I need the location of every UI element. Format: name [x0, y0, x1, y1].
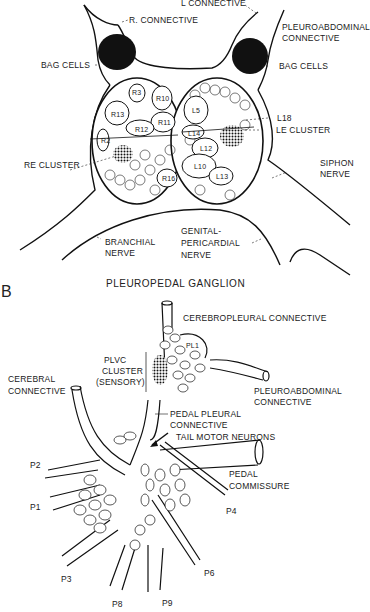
panel-letter-b: B: [1, 283, 12, 301]
label-pedal-pleural-2: CONNECTIVE: [170, 420, 228, 430]
neuron-r12: R12: [135, 125, 148, 135]
label-pleuroabdominal-2: CONNECTIVE: [282, 33, 340, 43]
label-pleuroabdominal-b-2: CONNECTIVE: [254, 397, 312, 407]
label-p8: P8: [112, 599, 123, 609]
label-siphon-2: NERVE: [320, 169, 350, 179]
neuron-r2: R2: [101, 136, 110, 146]
neuron-l13: L13: [216, 172, 228, 182]
label-plvc-3: (SENSORY): [96, 377, 145, 387]
label-pedal-pleural-1: PEDAL PLEURAL: [170, 409, 241, 419]
plvc-cluster: [152, 355, 168, 385]
label-genital-2: PERICARDIAL: [181, 238, 240, 248]
label-cerebral-2: CONNECTIVE: [8, 386, 66, 396]
pleuropedal-outline: [45, 301, 269, 592]
label-p2: P2: [30, 460, 41, 470]
label-pedal-commissure-1: PEDAL: [229, 469, 258, 479]
neuron-r13: R13: [111, 110, 124, 120]
panel-b-title: PLEUROPEDAL GANGLION: [106, 278, 245, 289]
neuron-r3: R3: [132, 88, 141, 98]
label-p4: P4: [226, 506, 237, 516]
neuron-l14: L14: [188, 129, 200, 139]
label-re-cluster: RE CLUSTER: [24, 160, 80, 170]
bag-cells-right: [232, 38, 268, 74]
bag-cells-left: [98, 34, 136, 70]
label-cerebropleural: CEREBROPLEURAL CONNECTIVE: [183, 313, 327, 323]
neuron-r10: R10: [156, 94, 169, 104]
label-siphon-1: SIPHON: [320, 158, 354, 168]
label-genital-3: NERVE: [181, 250, 211, 260]
label-bag-cells-right: BAG CELLS: [279, 61, 328, 71]
label-tail-motor-neurons: TAIL MOTOR NEURONS: [176, 432, 275, 442]
label-plvc-2: CLUSTER: [102, 366, 143, 376]
label-le-cluster: LE CLUSTER: [276, 125, 330, 135]
label-bag-cells-left: BAG CELLS: [41, 60, 90, 70]
label-pl1: PL1: [186, 341, 199, 351]
neuron-l5: L5: [192, 106, 200, 116]
label-pleuroabdominal-1: PLEUROABDOMINAL: [282, 22, 370, 32]
label-p1: P1: [30, 502, 41, 512]
label-branchial-2: NERVE: [105, 248, 135, 258]
label-p3: P3: [61, 574, 72, 584]
re-cluster: [113, 145, 133, 163]
label-branchial-1: BRANCHIAL: [105, 237, 155, 247]
label-p6: P6: [204, 568, 215, 578]
label-r-connective: R. CONNECTIVE: [129, 15, 198, 25]
neuron-l10: L10: [194, 162, 206, 172]
label-l-connective: L CONNECTIVE: [181, 0, 246, 8]
label-pleuroabdominal-b-1: PLEUROABDOMINAL: [254, 386, 342, 396]
label-p9: P9: [162, 598, 173, 608]
neuron-r16: R16: [162, 174, 175, 184]
label-genital-1: GENITAL-: [181, 226, 221, 236]
label-l18: L18: [277, 113, 292, 123]
label-pedal-commissure-2: COMMISSURE: [229, 481, 290, 491]
label-plvc-1: PLVC: [104, 355, 126, 365]
neuron-r11: R11: [158, 118, 171, 128]
label-cerebral-1: CEREBRAL: [8, 374, 55, 384]
neuron-l12: L12: [200, 144, 212, 154]
